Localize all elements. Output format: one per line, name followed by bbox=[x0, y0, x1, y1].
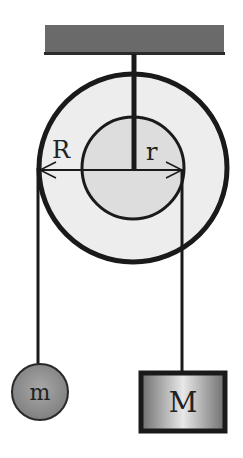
label-R: R bbox=[52, 136, 71, 164]
svg-text:m: m bbox=[30, 380, 51, 405]
ceiling bbox=[44, 25, 225, 55]
mass-m: m bbox=[12, 364, 68, 420]
pulley-diagram: R r m M bbox=[0, 0, 243, 458]
mass-M: M bbox=[141, 373, 225, 431]
svg-text:M: M bbox=[169, 386, 198, 419]
label-r: r bbox=[146, 138, 158, 166]
